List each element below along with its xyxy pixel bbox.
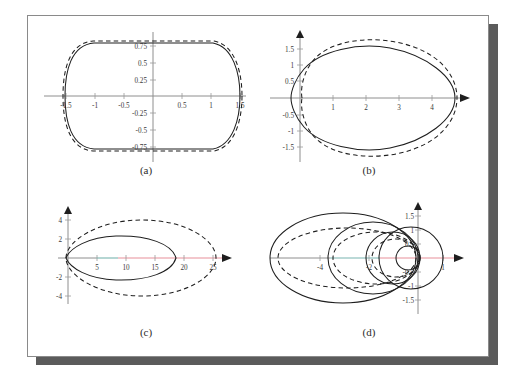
panel-b-ytick-label: 1.5 (285, 46, 294, 54)
panel-c-xtick-label: 5 (95, 264, 99, 272)
panel-a-xtick-label: 1.5 (236, 102, 245, 110)
panel-b-ytick-label: -1 (288, 128, 294, 136)
panel-c-caption: (c) (36, 326, 256, 338)
panel-d: -4 -2 1 1.5 1 0.5 -0.5 -1 -1.5 (d) (258, 196, 480, 351)
panel-b-caption: (b) (258, 164, 480, 176)
panel-d-ytick-label: 0.5 (405, 241, 414, 249)
panel-c-xtick-label: 25 (209, 264, 217, 272)
panel-b-xtick-label: 1 (331, 104, 335, 112)
panel-d-y-axis-arrow-icon (414, 202, 422, 210)
panel-d-ytick-label: -1 (408, 283, 414, 291)
panel-a-ytick-label: 0.25 (134, 77, 147, 85)
panel-d-ytick-label: 1.5 (405, 213, 414, 221)
panel-c-ytick-label: -4 (56, 293, 62, 301)
panel-c-ytick-label: 4 (58, 217, 62, 225)
panel-b-xtick-label: 3 (397, 104, 401, 112)
panel-a-xtick-label: -0.5 (118, 102, 130, 110)
figure-page-frame: -1.5 -1 -0.5 0.5 1 1.5 0.75 0.5 0.25 -0.… (27, 15, 489, 357)
panel-d-xtick-label: -4 (317, 264, 323, 272)
panel-a: -1.5 -1 -0.5 0.5 1 1.5 0.75 0.5 0.25 -0.… (36, 24, 256, 179)
panel-b: 1 2 3 4 1.5 1 0.5 -0.5 -1 -1.5 (b) (258, 24, 480, 179)
panel-c-plot: 5 10 15 20 25 4 2 -2 -4 (36, 196, 256, 316)
panel-a-ytick-label: -0.75 (132, 144, 147, 152)
panel-a-ytick-label: -0.5 (136, 127, 148, 135)
panel-a-caption: (a) (36, 164, 256, 176)
panel-d-plot: -4 -2 1 1.5 1 0.5 -0.5 -1 -1.5 (258, 196, 480, 321)
panel-b-ytick-label: 1 (290, 62, 294, 70)
panel-b-ytick-label: -1.5 (283, 144, 295, 152)
panel-a-xtick-label: 0.5 (178, 102, 187, 110)
panel-a-plot: -1.5 -1 -0.5 0.5 1 1.5 0.75 0.5 0.25 -0.… (36, 24, 256, 164)
panel-b-xtick-label: 4 (430, 104, 434, 112)
panel-b-ytick-label: -0.5 (283, 112, 295, 120)
panel-d-x-axis-arrow-icon (454, 254, 464, 262)
panel-d-xtick-label: 1 (441, 264, 445, 272)
panel-d-caption: (d) (258, 326, 480, 338)
panel-b-ytick-label: 0.5 (285, 78, 294, 86)
panel-c: 5 10 15 20 25 4 2 -2 -4 (c) (36, 196, 256, 351)
panel-c-y-axis-arrow-icon (64, 206, 72, 214)
panel-c-xtick-label: 15 (151, 264, 159, 272)
panel-d-ytick-label: 1 (410, 227, 414, 235)
panel-d-ytick-label: -0.5 (403, 269, 415, 277)
panel-d-xtick-label: -2 (366, 264, 372, 272)
panel-c-ytick-label: 2 (58, 236, 62, 244)
panel-b-xtick-label: 2 (364, 104, 368, 112)
panel-b-y-axis-arrow-icon (296, 30, 304, 38)
panel-b-plot: 1 2 3 4 1.5 1 0.5 -0.5 -1 -1.5 (258, 24, 480, 164)
panel-a-xtick-label: 1 (209, 102, 213, 110)
panel-a-xtick-label: -1 (92, 102, 98, 110)
panel-a-xtick-label: -1.5 (60, 102, 72, 110)
panel-c-xtick-label: 10 (122, 264, 130, 272)
panel-d-ytick-label: -1.5 (403, 297, 415, 305)
panel-a-ytick-label: -0.25 (132, 110, 147, 118)
panel-c-xtick-label: 20 (180, 264, 188, 272)
panel-c-ytick-label: -2 (56, 274, 62, 282)
panel-a-ytick-label: 0.75 (134, 43, 147, 51)
panel-c-x-axis-arrow-icon (222, 254, 232, 262)
panel-a-ytick-label: 0.5 (138, 60, 147, 68)
panel-b-x-axis-arrow-icon (460, 94, 470, 102)
